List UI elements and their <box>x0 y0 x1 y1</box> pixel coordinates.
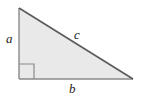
side-label-b: b <box>69 82 76 95</box>
side-label-c: c <box>74 28 80 41</box>
side-label-a: a <box>6 32 13 45</box>
right-triangle-figure: a c b <box>0 0 142 99</box>
